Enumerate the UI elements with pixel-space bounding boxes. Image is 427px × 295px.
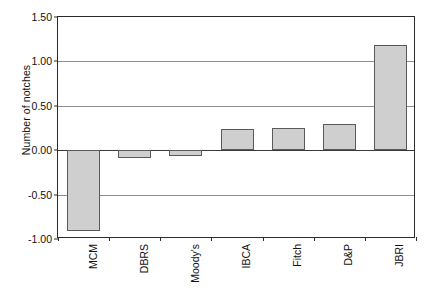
bar: [169, 150, 202, 155]
bar: [272, 128, 305, 150]
y-tick-label: -0.50: [28, 189, 52, 201]
bar-chart: Number of notches 1.501.000.500.00-0.50-…: [0, 0, 427, 295]
x-axis-label: Fitch: [291, 244, 303, 295]
y-tick-label: 1.50: [32, 11, 52, 23]
x-axis-label: MCM: [87, 244, 99, 295]
plot-area: 1.501.000.500.00-0.50-1.00: [57, 16, 415, 238]
bar: [118, 150, 151, 158]
x-axis-label: DBRS: [138, 244, 150, 295]
x-axis-label: IBCA: [240, 244, 252, 295]
y-tick-label: 0.50: [32, 100, 52, 112]
bar: [67, 150, 100, 231]
x-tick-mark: [416, 237, 417, 241]
y-tick-label: -1.00: [28, 233, 52, 245]
x-axis-label: D&P: [342, 244, 354, 295]
x-axis-label: Moody's: [189, 244, 201, 295]
bar: [374, 45, 407, 150]
bar: [221, 129, 254, 150]
bars-group: [58, 17, 414, 237]
y-tick-label: 1.00: [32, 55, 52, 67]
x-axis-label: JBRI: [393, 244, 405, 295]
bar: [323, 124, 356, 150]
x-axis-labels-group: MCMDBRSMoody'sIBCAFitchD&PJBRI: [57, 238, 415, 295]
y-tick-label: 0.00: [32, 144, 52, 156]
y-axis-title: Number of notches: [20, 40, 32, 180]
